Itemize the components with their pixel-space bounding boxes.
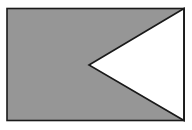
geometric-figure: gray-rectangle-with-white-triangular-not… [0, 0, 192, 130]
